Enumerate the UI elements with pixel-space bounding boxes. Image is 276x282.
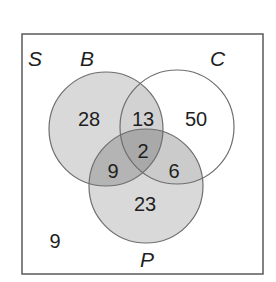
region-b-c-only: 13	[132, 108, 154, 130]
set-label-c: C	[210, 47, 226, 70]
region-b-only: 28	[78, 108, 100, 130]
region-c-only: 50	[185, 108, 207, 130]
set-label-p: P	[140, 248, 154, 271]
venn-diagram: S B C P 28 13 50 2 9 6 23 9	[0, 0, 276, 282]
region-outside: 9	[49, 230, 60, 252]
region-b-c-p: 2	[137, 140, 148, 162]
set-label-b: B	[80, 47, 94, 70]
universe-label: S	[28, 47, 42, 70]
region-c-p-only: 6	[168, 160, 179, 182]
region-b-p-only: 9	[107, 160, 118, 182]
region-p-only: 23	[134, 193, 156, 215]
